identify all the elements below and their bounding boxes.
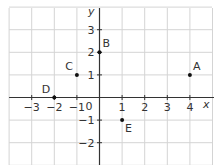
x-tick-label: 3 (164, 101, 171, 114)
y-tick-label: 3 (88, 24, 95, 37)
x-tick-label: −2 (46, 101, 62, 114)
x-tick-label: −1 (69, 101, 85, 114)
point-label-c: C (65, 60, 73, 73)
point-d (52, 96, 56, 100)
y-tick-label: 2 (88, 46, 95, 59)
point-c (75, 73, 79, 77)
point-label-a: A (193, 60, 201, 73)
coordinate-plane: x y 0 −3−2−11234321−1−2 ABCDE (0, 0, 215, 165)
x-tick-label: 2 (141, 101, 148, 114)
y-axis-label: y (87, 5, 95, 18)
y-tick-label: 1 (88, 69, 95, 82)
y-tick-label: −1 (78, 114, 94, 127)
point-label-e: E (125, 122, 132, 135)
origin-label: 0 (86, 100, 93, 113)
x-axis-label: x (202, 98, 210, 111)
x-tick-label: 1 (119, 101, 126, 114)
grid-lines (9, 7, 212, 165)
x-tick-label: 4 (186, 101, 193, 114)
point-a (188, 73, 192, 77)
y-tick-label: −2 (78, 137, 94, 150)
axes: x y 0 (9, 5, 214, 165)
point-b (98, 50, 102, 54)
point-e (120, 118, 124, 122)
x-tick-label: −3 (24, 101, 40, 114)
point-label-b: B (103, 37, 111, 50)
point-label-d: D (42, 83, 50, 96)
